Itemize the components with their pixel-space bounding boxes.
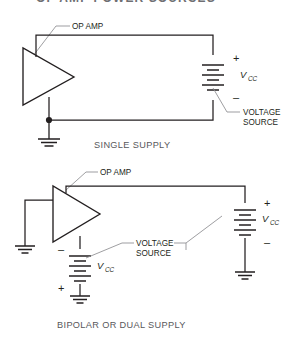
battery-1-vcc-label: V [240,69,248,80]
wire-bottom-1 [49,97,213,120]
battery-2r-vcc-subscript: CC [270,219,280,226]
ground-symbol-2-right [235,272,255,279]
opamp-label-1: OP AMP [72,22,104,31]
battery-2b-minus-sign: – [58,243,65,255]
battery-2r-minus-sign: – [264,236,271,248]
battery-2r-plus-sign: + [264,197,270,209]
figure-single-supply: + – V CC VOLTAGE SOURCE OP AMP SINGLE SU… [23,22,281,150]
opamp-triangle-1 [23,48,74,105]
opamp-label-2: OP AMP [100,168,132,177]
ground-symbol-1 [38,139,60,146]
caption-bipolar-dual-supply: BIPOLAR OR DUAL SUPPLY [57,320,186,330]
wire-top-2 [66,186,245,203]
voltage-source-label-1-line1: VOLTAGE [243,108,281,117]
voltage-source-leader-2-bottom [86,243,134,258]
opamp-triangle-2 [53,186,100,242]
ground-symbol-2-bottom [70,296,90,303]
battery-2b-vcc-label: V [97,260,105,271]
battery-1-minus-sign: – [233,91,240,103]
battery-2b-vcc-subscript: CC [105,266,115,273]
wire-input-plus-2 [25,200,53,246]
caption-single-supply: SINGLE SUPPLY [94,140,170,150]
wire-top-1 [36,35,213,57]
diagram-canvas: OP AMP POWER SOURCES [0,0,289,337]
voltage-source-label-1-line2: SOURCE [243,118,279,127]
battery-2b-plus-sign: + [58,282,64,294]
battery-1-plus-sign: + [233,52,239,64]
voltage-source-leader-2-right [174,216,222,250]
voltage-source-label-2-line1: VOLTAGE [136,239,174,248]
ground-symbol-2-left [15,246,35,253]
opamp-leader-line [33,26,70,56]
opamp-leader-line-2 [66,172,98,190]
figure-bipolar-dual-supply: OP AMP + – V CC [15,168,280,330]
voltage-source-label-2-line2: SOURCE [136,249,172,258]
battery-1-vcc-subscript: CC [248,75,258,82]
battery-2r-vcc-label: V [262,213,270,224]
circuit-diagram-svg: + – V CC VOLTAGE SOURCE OP AMP SINGLE SU… [0,0,289,337]
